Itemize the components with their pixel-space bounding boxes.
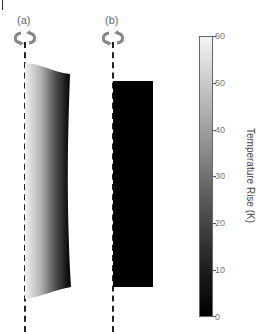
tick-label-20: 20 bbox=[215, 218, 225, 228]
tick-label-10: 10 bbox=[215, 265, 225, 275]
tick-label-0: 0 bbox=[215, 312, 220, 322]
colorbar bbox=[199, 36, 213, 317]
panel-a-shape bbox=[0, 0, 100, 332]
tick-label-60: 60 bbox=[215, 31, 225, 41]
tick-label-40: 40 bbox=[215, 125, 225, 135]
panel-b-shape bbox=[113, 81, 153, 287]
tick-label-50: 50 bbox=[215, 78, 225, 88]
panel-b-label: (b) bbox=[105, 14, 118, 26]
tick-label-30: 30 bbox=[215, 171, 225, 181]
colorbar-title: Temperature Rise (K) bbox=[245, 128, 256, 223]
